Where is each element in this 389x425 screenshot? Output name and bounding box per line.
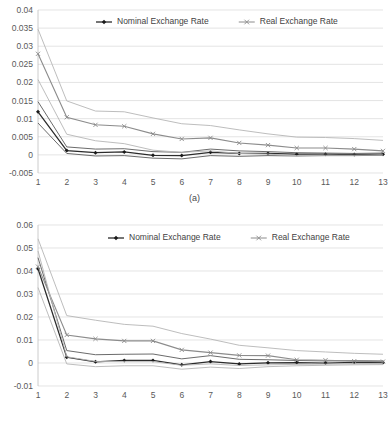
y-axis-tick-label: -0.01	[14, 381, 34, 391]
y-axis-tick-label: 0.02	[16, 312, 33, 322]
diamond-marker-icon	[151, 153, 155, 157]
figure-container: -0.00500.0050.010.0150.020.0250.030.0350…	[0, 0, 389, 425]
legend-item[interactable]: Real Exchange Rate	[239, 16, 338, 26]
x-axis-tick-label: 11	[321, 177, 330, 187]
legend-item[interactable]: Real Exchange Rate	[251, 232, 350, 242]
y-axis-tick-label: 0.04	[16, 5, 33, 15]
x-axis-tick-label: 13	[378, 177, 388, 187]
series-line-5	[38, 251, 383, 366]
legend-label: Real Exchange Rate	[272, 232, 350, 242]
y-axis-tick-label: 0.05	[16, 243, 33, 253]
series-line-3	[38, 54, 383, 151]
y-axis-tick-label: 0.06	[16, 220, 33, 230]
x-axis-tick-label: 5	[151, 177, 156, 187]
diamond-marker-icon	[122, 150, 126, 154]
x-axis-tick-label: 3	[93, 177, 98, 187]
x-axis-tick-label: 13	[378, 390, 388, 400]
x-axis-tick-label: 1	[36, 177, 41, 187]
legend-label: Real Exchange Rate	[260, 16, 338, 26]
diamond-marker-icon	[266, 361, 270, 365]
x-axis-tick-label: 2	[64, 390, 69, 400]
chart-panel-b: -0.0100.010.020.030.040.050.061234567891…	[0, 213, 389, 425]
x-axis-tick-label: 4	[122, 177, 127, 187]
line-chart-b: -0.0100.010.020.030.040.050.061234567891…	[0, 213, 389, 408]
series-line-1	[38, 258, 383, 361]
x-axis-tick-label: 6	[179, 177, 184, 187]
y-axis-tick-label: 0.005	[12, 132, 34, 142]
x-axis-tick-label: 9	[266, 390, 271, 400]
x-axis-tick-label: 12	[350, 177, 360, 187]
x-axis-tick-label: 1	[36, 390, 41, 400]
x-axis-tick-label: 3	[93, 390, 98, 400]
x-axis-tick-label: 5	[151, 390, 156, 400]
x-axis-tick-label: 4	[122, 390, 127, 400]
y-axis-tick-label: 0.035	[12, 23, 34, 33]
caption-a: (a)	[0, 193, 389, 203]
line-chart-a: -0.00500.0050.010.0150.020.0250.030.0350…	[0, 0, 389, 193]
diamond-marker-icon	[180, 154, 184, 158]
y-axis-tick-label: 0.025	[12, 59, 34, 69]
legend-item[interactable]: Nominal Exchange Rate	[108, 232, 221, 242]
x-axis-tick-label: 10	[292, 177, 302, 187]
chart-panel-a: -0.00500.0050.010.0150.020.0250.030.0350…	[0, 0, 389, 213]
x-axis-tick-label: 8	[237, 390, 242, 400]
plot-area-a: -0.00500.0050.010.0150.020.0250.030.0350…	[0, 0, 389, 193]
y-axis-tick-label: 0.01	[16, 114, 33, 124]
diamond-marker-icon	[114, 236, 118, 240]
diamond-marker-icon	[102, 20, 106, 24]
x-axis-tick-label: 7	[208, 177, 213, 187]
y-axis-tick-label: 0.02	[16, 77, 33, 87]
legend-item[interactable]: Nominal Exchange Rate	[96, 16, 209, 26]
y-axis-tick-label: 0.03	[16, 41, 33, 51]
x-axis-tick-label: 12	[350, 390, 360, 400]
plot-area-b: -0.0100.010.020.030.040.050.061234567891…	[0, 213, 389, 408]
x-axis-tick-label: 10	[292, 390, 302, 400]
x-axis-tick-label: 2	[64, 177, 69, 187]
x-axis-tick-label: 7	[208, 390, 213, 400]
legend-label: Nominal Exchange Rate	[117, 16, 209, 26]
series-line-3	[38, 267, 383, 362]
y-axis-tick-label: 0.01	[16, 335, 33, 345]
y-axis-tick-label: 0.04	[16, 266, 33, 276]
x-axis-tick-label: 9	[266, 177, 271, 187]
y-axis-tick-label: 0	[28, 150, 33, 160]
legend-label: Nominal Exchange Rate	[129, 232, 221, 242]
series-line-4	[38, 239, 383, 354]
y-axis-tick-label: 0.015	[12, 96, 34, 106]
x-axis-tick-label: 6	[179, 390, 184, 400]
x-axis-tick-label: 11	[321, 390, 330, 400]
y-axis-tick-label: 0	[28, 358, 33, 368]
y-axis-tick-label: -0.005	[9, 168, 33, 178]
x-axis-tick-label: 8	[237, 177, 242, 187]
y-axis-tick-label: 0.03	[16, 289, 33, 299]
series-line-2	[38, 288, 383, 370]
series-line-5	[38, 80, 383, 156]
diamond-marker-icon	[94, 151, 98, 155]
